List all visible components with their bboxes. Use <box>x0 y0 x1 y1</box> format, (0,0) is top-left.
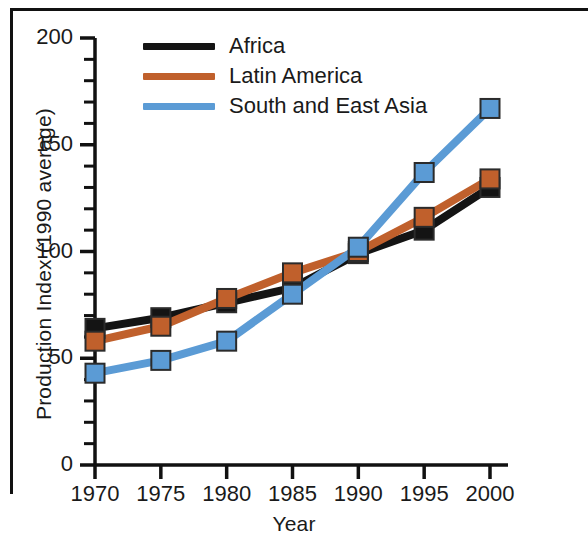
legend-entry: Africa <box>143 35 285 57</box>
y-tick-label: 100 <box>3 238 73 264</box>
x-tick-label: 2000 <box>455 481 525 507</box>
y-tick-label: 150 <box>3 131 73 157</box>
figure-container: Production Index (1990 average) Year 050… <box>0 0 588 551</box>
legend-label: Latin America <box>229 65 362 87</box>
x-tick-label: 1985 <box>258 481 328 507</box>
x-tick-label: 1995 <box>389 481 459 507</box>
x-tick-label: 1990 <box>323 481 393 507</box>
x-tick-label: 1970 <box>60 481 130 507</box>
legend-entry: Latin America <box>143 65 362 87</box>
legend-color-swatch <box>143 103 215 110</box>
x-tick-label: 1975 <box>126 481 196 507</box>
x-tick-label: 1980 <box>192 481 262 507</box>
legend-entry: South and East Asia <box>143 95 427 117</box>
legend-color-swatch <box>143 43 215 50</box>
y-tick-label: 50 <box>3 344 73 370</box>
x-axis-title: Year <box>0 512 588 536</box>
y-tick-label: 200 <box>3 24 73 50</box>
y-tick-label: 0 <box>3 451 73 477</box>
legend-label: Africa <box>229 35 285 57</box>
legend-color-swatch <box>143 73 215 80</box>
chart-series-group <box>86 99 500 383</box>
y-axis-title: Production Index (1990 average) <box>32 54 56 474</box>
legend-label: South and East Asia <box>229 95 427 117</box>
